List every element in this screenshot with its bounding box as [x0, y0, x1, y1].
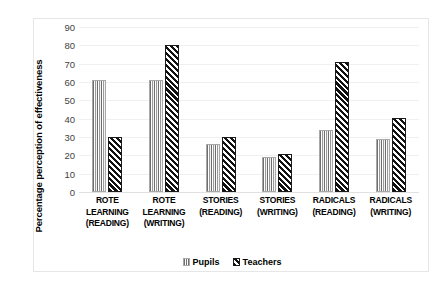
bar-group	[306, 27, 363, 192]
legend-swatch-icon	[183, 258, 190, 266]
y-axis-tick-label: 30	[64, 132, 75, 143]
x-axis-category-label: RADICALS(WRITING)	[362, 195, 419, 253]
bar-teachers[interactable]	[108, 137, 122, 192]
gridline	[79, 192, 419, 193]
y-axis-tick-label: 90	[64, 22, 75, 33]
bar-teachers[interactable]	[335, 62, 349, 192]
bar-pupils[interactable]	[319, 130, 333, 192]
bar-pupils[interactable]	[376, 139, 390, 192]
bar-group	[136, 27, 193, 192]
bar-groups	[79, 27, 419, 192]
chart-legend: PupilsTeachers	[34, 255, 430, 269]
bar-teachers[interactable]	[165, 45, 179, 192]
y-axis-tick-label: 50	[64, 95, 75, 106]
bar-teachers[interactable]	[278, 154, 292, 192]
y-axis-tick-label: 10	[64, 168, 75, 179]
legend-item-teachers[interactable]: Teachers	[233, 257, 282, 267]
bar-pupils[interactable]	[206, 144, 220, 192]
y-axis-tick-label: 20	[64, 150, 75, 161]
x-axis-category-label: RADICALS(READING)	[306, 195, 363, 253]
bar-group	[249, 27, 306, 192]
bar-group	[362, 27, 419, 192]
legend-label: Pupils	[193, 257, 220, 267]
legend-swatch-icon	[233, 258, 240, 266]
x-axis-category-label: ROTELEARNING(READING)	[79, 195, 136, 253]
y-axis-tick-label: 0	[70, 187, 75, 198]
y-axis-tick-label: 40	[64, 113, 75, 124]
x-axis-category-label: STORIES(READING)	[192, 195, 249, 253]
plot-area: 0102030405060708090	[79, 27, 419, 192]
bar-pupils[interactable]	[262, 157, 276, 192]
bar-pupils[interactable]	[149, 80, 163, 192]
x-axis-category-label: ROTELEARNING(WRITING)	[136, 195, 193, 253]
y-axis-tick-label: 70	[64, 58, 75, 69]
bar-pupils[interactable]	[92, 80, 106, 192]
bar-group	[192, 27, 249, 192]
y-axis-tick-label: 80	[64, 40, 75, 51]
x-axis-category-labels: ROTELEARNING(READING)ROTELEARNING(WRITIN…	[79, 195, 419, 253]
bar-teachers[interactable]	[392, 118, 406, 192]
x-axis-category-label: STORIES(WRITING)	[249, 195, 306, 253]
legend-item-pupils[interactable]: Pupils	[183, 257, 220, 267]
chart-container: Percentage perception of effectiveness 0…	[33, 18, 429, 272]
bar-group	[79, 27, 136, 192]
bar-teachers[interactable]	[222, 137, 236, 192]
y-axis-tick-label: 60	[64, 77, 75, 88]
legend-label: Teachers	[243, 257, 282, 267]
y-axis-title: Percentage perception of effectiveness	[31, 19, 45, 273]
